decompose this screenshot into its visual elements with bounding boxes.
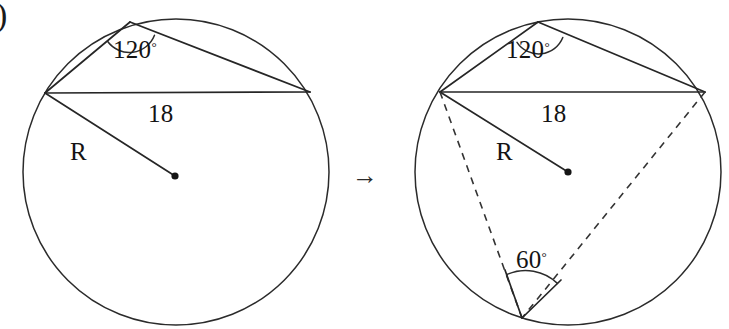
left-chord-label-18: 18 — [148, 100, 174, 127]
right-angle-label-60: 60° — [516, 246, 547, 273]
right-triangle-side-right — [538, 22, 705, 92]
right-angle-label-120: 120° — [506, 36, 550, 63]
right-radius-label-R: R — [496, 138, 513, 165]
left-center-dot — [171, 172, 178, 179]
left-radius-label-R: R — [70, 138, 87, 165]
corner-paren-label: ) — [0, 0, 7, 34]
transition-arrow-icon: → — [352, 161, 378, 190]
right-center-dot — [564, 168, 571, 175]
figure-root: ) 120° 18 R → — [0, 0, 729, 329]
geometry-figure: ) 120° 18 R → — [0, 0, 729, 329]
right-diagram: 120° 18 R 60° — [415, 19, 721, 325]
left-angle-label-120: 120° — [113, 36, 157, 63]
left-circle-outline — [23, 19, 329, 325]
left-diagram: 120° 18 R — [23, 19, 329, 325]
left-chord-18 — [45, 92, 310, 93]
right-chord-label-18: 18 — [541, 100, 567, 127]
right-wedge-leg-left — [505, 270, 522, 318]
left-triangle-side-right — [130, 22, 310, 92]
right-wedge-leg-right — [522, 280, 561, 318]
